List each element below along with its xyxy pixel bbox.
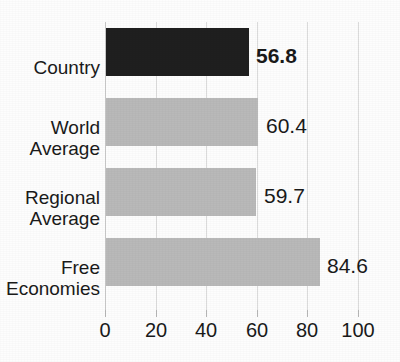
tick-label-80: 80 (296, 319, 318, 342)
tick-mark-40 (206, 310, 207, 317)
tick-label-20: 20 (145, 319, 167, 342)
value-label-world-average: 60.4 (266, 115, 307, 136)
bar-regional-average (106, 168, 256, 216)
tick-mark-100 (358, 310, 359, 317)
value-label-regional-average: 59.7 (264, 185, 305, 206)
bar-free-economies (106, 238, 320, 286)
tick-label-60: 60 (246, 319, 268, 342)
value-label-country: 56.8 (256, 45, 297, 66)
category-label-world-average: World Average (0, 118, 100, 159)
tick-label-0: 0 (99, 319, 110, 342)
bar-chart: Country World Average Regional Average F… (0, 0, 400, 362)
tick-mark-60 (257, 310, 258, 317)
value-label-free-economies: 84.6 (327, 255, 368, 276)
tick-label-40: 40 (195, 319, 217, 342)
category-axis: Country World Average Regional Average F… (0, 22, 100, 310)
plot-area (105, 22, 358, 310)
tick-mark-80 (307, 310, 308, 317)
bar-country (106, 28, 249, 76)
tick-mark-20 (156, 310, 157, 317)
bar-world-average (106, 98, 258, 146)
category-label-regional-average: Regional Average (0, 188, 100, 229)
category-label-free-economies: Free Economies (0, 258, 100, 299)
tick-label-100: 100 (341, 319, 374, 342)
tick-mark-0 (105, 310, 106, 317)
chart-title-clipped (0, 0, 400, 13)
x-axis: 0 20 40 60 80 100 (105, 310, 358, 350)
category-label-country: Country (0, 58, 100, 79)
